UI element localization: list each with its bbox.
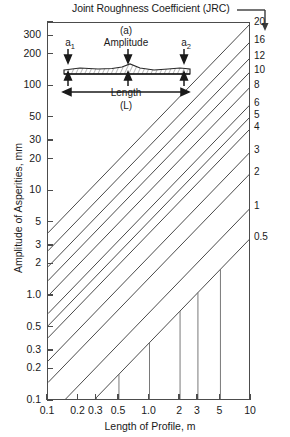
jrc-label-1: 1 (254, 200, 260, 211)
jrc-label-12: 12 (254, 50, 265, 61)
jrc-label-0.5: 0.5 (254, 231, 268, 242)
jrc-label-8: 8 (254, 79, 260, 90)
jrc-label-20: 20 (254, 16, 265, 27)
y-axis-title: Amplitude of Asperities, mm (12, 128, 24, 288)
jrc-label-16: 16 (254, 34, 265, 45)
inset-profile-graphic (50, 24, 230, 116)
jrc-label-4: 4 (254, 121, 260, 132)
chart-root: Joint Roughness Coefficient (JRC) 300200… (0, 0, 290, 437)
jrc-label-2: 2 (254, 166, 260, 177)
jrc-label-6: 6 (254, 97, 260, 108)
x-axis-title: Length of Profile, m (70, 420, 230, 432)
jrc-label-3: 3 (254, 144, 260, 155)
jrc-label-10: 10 (254, 64, 265, 75)
jrc-label-5: 5 (254, 109, 260, 120)
inset-profile-diagram: (a) Amplitude a1 a2 Length (L) (50, 24, 230, 116)
